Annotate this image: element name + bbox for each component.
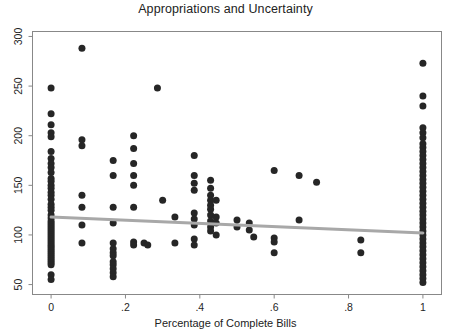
data-point [250, 233, 257, 240]
data-point [271, 238, 278, 245]
data-point [207, 177, 214, 184]
x-axis-ticks: 0.2.4.6.81 [48, 295, 426, 313]
data-point [171, 214, 178, 221]
data-point [357, 249, 364, 256]
data-point [419, 60, 426, 67]
data-point [246, 226, 253, 233]
data-point [213, 231, 220, 238]
y-tick-label: 300 [12, 28, 24, 46]
data-point [191, 210, 198, 217]
data-point [78, 192, 85, 199]
data-point [130, 145, 137, 152]
data-point [159, 197, 166, 204]
data-point [48, 261, 55, 268]
data-point [110, 252, 117, 259]
data-point [191, 187, 198, 194]
data-point [130, 241, 137, 248]
data-point [78, 204, 85, 211]
data-point [296, 217, 303, 224]
data-point [191, 241, 198, 248]
y-tick-label: 250 [12, 77, 24, 95]
data-point [313, 179, 320, 186]
x-tick-label: 0 [48, 301, 54, 313]
data-point [110, 273, 117, 280]
scatter-plot-figure: Appropriations and Uncertainty 501001502… [0, 0, 451, 335]
data-point [154, 85, 161, 92]
data-point [110, 204, 117, 211]
data-point [110, 172, 117, 179]
data-point [191, 172, 198, 179]
data-point [207, 206, 214, 213]
data-point [213, 197, 220, 204]
y-tick-label: 100 [12, 226, 24, 244]
data-point [191, 216, 198, 223]
plot-canvas: 50100150200250300 0.2.4.6.81 [0, 0, 451, 335]
data-point [78, 222, 85, 229]
data-point [48, 133, 55, 140]
data-point [191, 152, 198, 159]
data-point [110, 239, 117, 246]
data-point [48, 148, 55, 155]
y-tick-label: 200 [12, 127, 24, 145]
data-point [419, 134, 426, 141]
data-point [130, 182, 137, 189]
data-point [271, 249, 278, 256]
plot-frame [33, 32, 442, 295]
data-point [130, 132, 137, 139]
y-tick-label: 50 [12, 279, 24, 291]
data-point [171, 239, 178, 246]
x-axis-label: Percentage of Complete Bills [0, 317, 451, 329]
x-tick-label: .4 [195, 301, 204, 313]
data-point [271, 167, 278, 174]
data-point [234, 217, 241, 224]
data-point [191, 235, 198, 242]
data-point [419, 102, 426, 109]
y-axis-ticks: 50100150200250300 [12, 28, 32, 291]
data-point [78, 136, 85, 143]
data-point [48, 169, 55, 176]
data-point [130, 172, 137, 179]
data-point [48, 85, 55, 92]
data-point [48, 110, 55, 117]
data-point [419, 93, 426, 100]
data-point [48, 121, 55, 128]
x-tick-label: .8 [344, 301, 353, 313]
data-point [110, 157, 117, 164]
x-tick-label: .2 [121, 301, 130, 313]
data-point [78, 142, 85, 149]
data-point [357, 236, 364, 243]
data-point [144, 241, 151, 248]
data-point [130, 204, 137, 211]
data-point [296, 172, 303, 179]
x-tick-label: 1 [420, 301, 426, 313]
x-tick-label: .6 [270, 301, 279, 313]
data-point [130, 160, 137, 167]
data-point [78, 45, 85, 52]
data-point [191, 180, 198, 187]
data-point [419, 279, 426, 286]
data-point [207, 185, 214, 192]
y-tick-label: 150 [12, 176, 24, 194]
data-point [78, 239, 85, 246]
data-point [48, 276, 55, 283]
